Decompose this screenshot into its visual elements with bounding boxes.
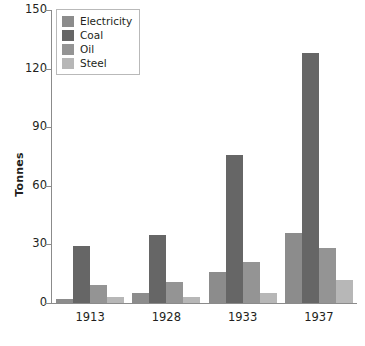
x-tick-label: 1937 [281,310,357,324]
bar [302,53,319,303]
y-axis-title: Tonnes [13,140,26,210]
legend: ElectricityCoalOilSteel [56,9,140,75]
bar [166,282,183,303]
y-tick-label: 0 [40,295,47,309]
legend-label: Coal [80,30,103,41]
bar-group [281,10,357,303]
y-tick-mark [45,127,51,128]
legend-swatch-icon [62,30,74,41]
bar-group [205,10,281,303]
bar [183,297,200,303]
y-tick-mark [45,303,51,304]
y-tick-label: 60 [32,178,47,192]
bar-chart: Tonnes 0306090120150 1913192819331937 El… [0,0,365,346]
x-axis-line [51,303,357,304]
bar [90,285,107,303]
y-tick-label: 150 [25,2,47,16]
legend-label: Electricity [80,16,132,27]
y-tick-mark [45,10,51,11]
y-tick-mark [45,69,51,70]
y-tick-mark [45,186,51,187]
y-tick-label: 90 [32,119,47,133]
bar [319,248,336,303]
legend-item: Steel [62,56,134,70]
bar [73,246,90,303]
legend-item: Coal [62,28,134,42]
bar [226,155,243,303]
legend-item: Electricity [62,14,134,28]
legend-swatch-icon [62,44,74,55]
bar [132,293,149,303]
bar [285,233,302,303]
bar [336,280,353,303]
legend-label: Steel [80,58,107,69]
x-tick-label: 1933 [205,310,281,324]
bar [107,297,124,303]
bar [149,235,166,303]
bar [209,272,226,303]
bar [56,299,73,303]
bar [260,293,277,303]
y-tick-label: 120 [25,61,47,75]
legend-swatch-icon [62,16,74,27]
x-tick-label: 1928 [128,310,204,324]
x-tick-label: 1913 [52,310,128,324]
y-tick-mark [45,244,51,245]
y-tick-label: 30 [32,236,47,250]
legend-label: Oil [80,44,94,55]
legend-swatch-icon [62,58,74,69]
legend-item: Oil [62,42,134,56]
bar [243,262,260,303]
